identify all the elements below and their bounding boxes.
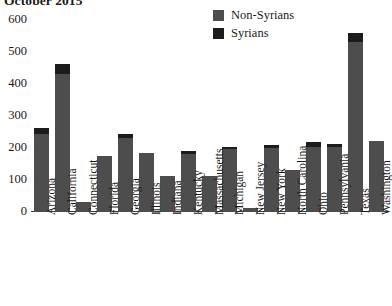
x-tick-washington: Washington: [381, 160, 392, 215]
x-tick-indiana: Indiana: [172, 181, 184, 215]
y-tick-600: 600: [8, 13, 27, 26]
x-tick-illinois: Illinois: [151, 182, 163, 215]
y-tick-0: 0: [21, 205, 27, 218]
x-tick-north-carolina: North Carolina: [297, 146, 309, 215]
x-tick-georgia: Georgia: [130, 178, 142, 215]
plot-area: [31, 19, 387, 212]
bar-segment-syrians: [181, 151, 196, 154]
y-tick-200: 200: [8, 141, 27, 154]
x-tick-kentucky: Kentucky: [193, 170, 205, 215]
x-tick-arizona: Arizona: [46, 178, 58, 215]
x-tick-texas: Texas: [360, 188, 372, 215]
bar-segment-syrians: [55, 64, 70, 74]
y-tick-100: 100: [8, 173, 27, 186]
bar-segment-syrians: [118, 134, 133, 138]
x-tick-ohio: Ohio: [318, 192, 330, 215]
x-tick-new-jersey: New Jersey: [255, 162, 267, 215]
x-tick-massachusetts: Massachusetts: [214, 149, 226, 215]
bar-segment-syrians: [348, 33, 363, 42]
y-tick-300: 300: [8, 109, 27, 122]
x-tick-california: California: [67, 168, 79, 215]
bar-segment-syrians: [264, 145, 279, 148]
bar-segment-syrians: [34, 128, 49, 134]
y-axis-tick-labels: 0100200300400500600: [0, 0, 27, 232]
y-tick-500: 500: [8, 45, 27, 58]
x-tick-new-york: New York: [276, 168, 288, 215]
y-tick-400: 400: [8, 77, 27, 90]
x-tick-pennsylvania: Pennsylvania: [339, 154, 351, 215]
x-tick-michigan: Michigan: [234, 171, 246, 215]
bar-segment-syrians: [327, 144, 342, 147]
x-tick-florida: Florida: [109, 182, 121, 215]
x-tick-connecticut: Connecticut: [88, 159, 100, 215]
